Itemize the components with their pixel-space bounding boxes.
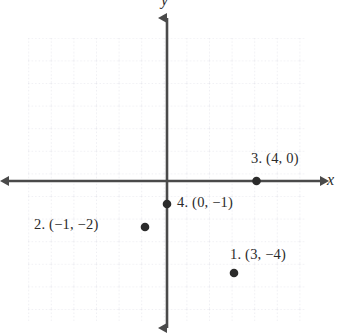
data-point-3 bbox=[252, 177, 261, 186]
data-point-2 bbox=[141, 223, 150, 232]
coordinate-plane-figure: 1. (3, −4) 2. (−1, −2) 3. (4, 0) 4. (0, … bbox=[0, 0, 344, 333]
y-axis-label: y bbox=[161, 0, 168, 9]
data-point-1 bbox=[230, 269, 239, 278]
data-point-3-label: 3. (4, 0) bbox=[251, 150, 299, 167]
data-point-1-label: 1. (3, −4) bbox=[230, 246, 286, 263]
data-point-4 bbox=[163, 200, 172, 209]
data-point-2-label: 2. (−1, −2) bbox=[34, 216, 98, 233]
data-point-4-label: 4. (0, −1) bbox=[177, 194, 233, 211]
x-axis-label: x bbox=[327, 171, 334, 189]
